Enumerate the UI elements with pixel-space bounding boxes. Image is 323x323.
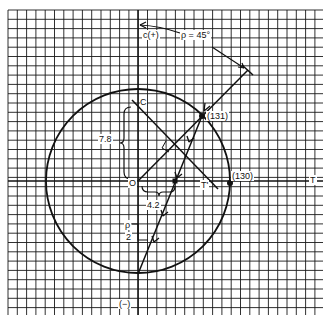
rho-half-bracket <box>132 224 148 240</box>
t-prime-label: T' <box>200 180 209 190</box>
axis-t-label: T <box>309 175 317 185</box>
point-131-marker <box>199 113 205 119</box>
rho-angle-label: ρ = 45° <box>180 30 211 40</box>
c-plus-label: c(+) <box>142 30 160 40</box>
dim-7-8-label: 7.8 <box>98 134 113 144</box>
c-minus-label: (−) <box>118 299 131 309</box>
origin-label: O <box>128 178 137 188</box>
rho-leader <box>212 47 244 68</box>
mohr-diagram: c(+) ρ = 45° C (131) 7.8 (130) T O T' 4.… <box>0 0 323 323</box>
axis-c-label: C <box>140 97 147 107</box>
rho-half-numerator: ρ <box>124 220 131 230</box>
point-130-label: (130) <box>231 171 254 181</box>
direction-arrow-icon <box>161 210 168 216</box>
rho-half-denominator: 2 <box>125 232 132 242</box>
point-131-label: (131) <box>206 111 229 121</box>
dim-4-2-label: 4.2 <box>146 200 161 210</box>
diagram-canvas <box>0 0 323 323</box>
center-marker <box>173 179 178 184</box>
construction-lines <box>8 10 323 315</box>
